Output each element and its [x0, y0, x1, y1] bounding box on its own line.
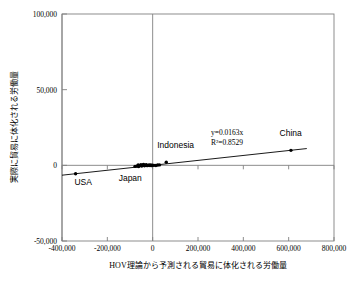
x-tick-label: 800,000: [322, 244, 347, 253]
chart-canvas: -400,000-200,0000200,000400,000600,00080…: [0, 0, 360, 282]
point-label: China: [280, 128, 302, 138]
y-tick-label: -50,000: [34, 237, 57, 246]
point-label: USA: [74, 177, 92, 187]
x-tick-label: 400,000: [231, 244, 256, 253]
y-axis-title: 実際に貿易に体化される労働量: [9, 71, 19, 183]
x-axis-title: HOV理論から予測される貿易に体化される労働量: [109, 260, 286, 270]
point-label: Indonesia: [157, 140, 194, 150]
data-point: [165, 161, 168, 164]
x-tick-label: 600,000: [276, 244, 301, 253]
x-tick-label: 0: [151, 244, 155, 253]
scatter-chart: -400,000-200,0000200,000400,000600,00080…: [0, 0, 360, 282]
data-point: [289, 149, 292, 152]
data-point: [74, 172, 77, 175]
y-tick-label: 0: [53, 161, 57, 170]
r-squared-annotation: R²=0.8529: [211, 138, 243, 147]
point-label: Japan: [119, 173, 142, 183]
x-tick-label: -200,000: [94, 244, 121, 253]
equation-annotation: y=0.0163x: [211, 128, 244, 137]
data-point: [158, 163, 161, 166]
x-tick-label: 200,000: [186, 244, 211, 253]
y-tick-label: 100,000: [33, 10, 58, 19]
y-tick-label: 50,000: [36, 86, 57, 95]
